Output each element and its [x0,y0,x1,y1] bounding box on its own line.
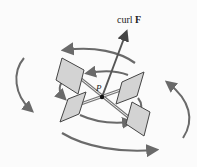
curl-f-label: curl F [117,14,141,25]
point-p-label: P [96,83,102,93]
point-p [100,95,104,99]
rotation-arrow-inner-bottom [80,115,130,123]
rotation-arrow-bottom [62,133,155,151]
paddle-lower-right [126,102,150,136]
rotation-arrow-left [16,58,31,110]
rotation-arrow-inner-top [88,71,128,75]
rotation-arrow-right [168,83,189,138]
vector-f-text: F [135,14,141,25]
rotation-arrow-top [65,49,135,63]
curl-diagram: curl F P [0,0,197,167]
curl-text: curl [117,14,135,25]
